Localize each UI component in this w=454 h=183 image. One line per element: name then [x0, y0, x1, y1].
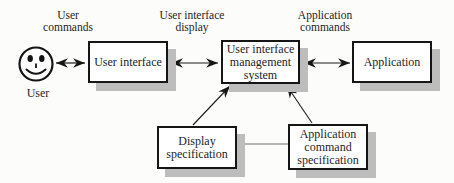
node-label-line: User interface	[94, 56, 162, 69]
node-label-line: management	[230, 56, 291, 69]
node-label-line: specification	[297, 154, 358, 167]
node-label-line: Application	[364, 56, 421, 69]
label-line: commands	[280, 22, 370, 34]
arrow-appcmdspec-uims	[287, 86, 312, 123]
arrow-displayspec-uims	[193, 86, 230, 125]
node-label-line: Application	[300, 128, 357, 141]
user-smiley-icon	[14, 42, 58, 86]
label-application-commands: Application commands	[280, 10, 370, 33]
node-label-line: Display	[178, 135, 215, 148]
label-line: Application	[280, 10, 370, 22]
uims-architecture-diagram: User commands User interface display App…	[0, 0, 454, 183]
label-line: User	[28, 10, 108, 22]
label-user-commands: User commands	[28, 10, 108, 33]
node-label-line: specification	[166, 148, 227, 161]
node-user-interface: User interface	[88, 41, 168, 83]
node-application: Application	[352, 41, 432, 83]
node-label-line: system	[244, 69, 277, 82]
node-display-specification: Display specification	[157, 126, 237, 169]
label-line: display	[147, 22, 237, 34]
user-actor-label: User	[13, 87, 63, 99]
label-user-interface-display: User interface display	[147, 10, 237, 33]
node-uims: User interface management system	[221, 40, 300, 84]
node-application-command-specification: Application command specification	[288, 124, 368, 170]
label-line: User interface	[147, 10, 237, 22]
node-label-line: command	[304, 141, 351, 154]
label-line: commands	[28, 22, 108, 34]
node-label-line: User interface	[227, 43, 295, 56]
